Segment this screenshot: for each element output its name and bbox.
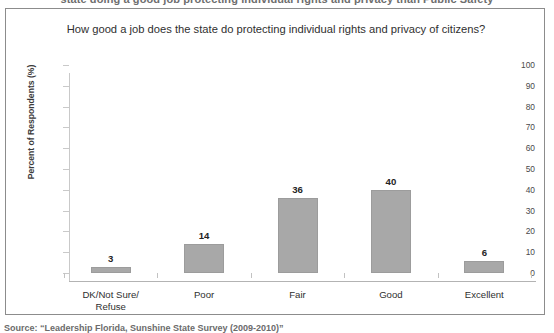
- y-axis-tick: [63, 107, 69, 108]
- y-axis-tick-label: 60: [490, 143, 544, 153]
- bar: [278, 198, 318, 273]
- x-axis-tick: [157, 273, 158, 278]
- y-axis-tick: [63, 211, 69, 212]
- x-axis-tick: [438, 273, 439, 278]
- bar-value-label: 36: [268, 184, 328, 195]
- y-axis-tick-label: 20: [490, 226, 544, 236]
- x-axis-tick: [64, 273, 65, 278]
- x-axis-line: [69, 281, 536, 282]
- y-axis-tick: [63, 148, 69, 149]
- bar: [464, 261, 504, 273]
- y-axis-tick: [63, 190, 69, 191]
- bar-value-label: 14: [174, 230, 234, 241]
- bar-value-label: 40: [361, 176, 421, 187]
- category-label-line: Excellent: [438, 289, 531, 301]
- category-label: Good: [344, 289, 437, 301]
- category-label-line: Fair: [251, 289, 344, 301]
- y-axis-tick: [63, 252, 69, 253]
- x-axis-tick: [344, 273, 345, 278]
- y-axis-tick-label: 50: [490, 164, 544, 174]
- x-axis-tick: [531, 273, 532, 278]
- y-axis-tick-label: 100: [490, 60, 544, 70]
- y-axis-tick: [63, 169, 69, 170]
- y-axis-line: [69, 73, 70, 282]
- y-axis-tick-label: 30: [490, 206, 544, 216]
- category-label-line: Poor: [157, 289, 250, 301]
- top-clipped-caption: state doing a good job protecting indivi…: [0, 0, 554, 5]
- y-axis-tick-label: 80: [490, 102, 544, 112]
- bar: [184, 244, 224, 273]
- y-axis-tick: [63, 86, 69, 87]
- y-axis-tick: [63, 65, 69, 66]
- category-label-line: Good: [344, 289, 437, 301]
- y-axis-tick-label: 40: [490, 185, 544, 195]
- bar-value-label: 3: [81, 253, 141, 264]
- y-axis-tick-label: 70: [490, 122, 544, 132]
- category-label-line: DK/Not Sure/: [64, 289, 157, 301]
- category-label-line: Refuse: [64, 301, 157, 313]
- category-label: Poor: [157, 289, 250, 301]
- bar: [91, 267, 131, 273]
- bar: [371, 190, 411, 273]
- y-axis-tick: [63, 127, 69, 128]
- category-label: DK/Not Sure/Refuse: [64, 289, 157, 313]
- y-axis-title: Percent of Respondents (%): [26, 52, 36, 192]
- y-axis-tick-label: 90: [490, 81, 544, 91]
- category-label: Excellent: [438, 289, 531, 301]
- y-axis-tick: [63, 231, 69, 232]
- chart-frame: How good a job does the state do protect…: [5, 8, 545, 315]
- source-note: Source: “Leadership Florida, Sunshine St…: [4, 323, 552, 333]
- chart-title: How good a job does the state do protect…: [54, 22, 498, 37]
- category-label: Fair: [251, 289, 344, 301]
- x-axis-tick: [251, 273, 252, 278]
- bar-value-label: 6: [454, 247, 514, 258]
